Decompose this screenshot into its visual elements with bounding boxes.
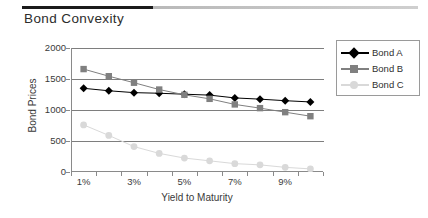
y-tick-label: 1500 [26, 73, 66, 84]
data-point [105, 87, 113, 95]
y-tick-label: 2000 [26, 42, 66, 53]
diamond-marker-icon [348, 47, 359, 58]
x-tick-label: 3% [119, 176, 149, 187]
data-point [231, 160, 238, 167]
data-point [257, 161, 264, 168]
y-tick-label: 500 [26, 135, 66, 146]
data-point [130, 89, 138, 97]
series-line [84, 88, 311, 102]
x-tick-label: 9% [270, 176, 300, 187]
data-point [181, 155, 188, 162]
legend-item-bond-c[interactable]: Bond C [341, 77, 417, 92]
legend-swatch [341, 79, 369, 91]
legend-item-bond-b[interactable]: Bond B [341, 61, 417, 76]
data-point [156, 150, 163, 157]
data-point [256, 95, 264, 103]
circle-marker-icon [350, 81, 358, 89]
legend-label: Bond A [369, 47, 403, 58]
data-point [282, 164, 289, 171]
legend-swatch [341, 47, 369, 59]
data-point [231, 94, 239, 102]
y-tick-label: 0 [26, 166, 66, 177]
legend: Bond ABond BBond C [336, 40, 420, 96]
x-axis-tick-labels: 1%3%5%7%9% [71, 176, 324, 190]
data-point [80, 84, 88, 92]
series-bond-b [80, 66, 313, 120]
data-point [181, 92, 187, 98]
x-tick-label: 1% [69, 176, 99, 187]
data-point [282, 109, 288, 115]
page-title: Bond Convexity [24, 11, 124, 26]
data-point [206, 157, 213, 164]
title-divider [22, 6, 418, 9]
x-tick-label: 7% [220, 176, 250, 187]
y-tick-mark [66, 141, 70, 142]
y-tick-mark [66, 172, 70, 173]
chart-screenshot: { "title": "Bond Convexity", "legend": {… [0, 0, 428, 218]
series-bond-a [80, 84, 315, 106]
data-point [105, 132, 112, 139]
data-point [306, 98, 314, 106]
series-line [84, 69, 311, 116]
data-point [307, 113, 313, 119]
data-point [131, 80, 137, 86]
legend-label: Bond C [369, 79, 404, 90]
legend-swatch [341, 63, 369, 75]
data-point [281, 97, 289, 105]
y-axis-tick-labels: 0500100015002000 [22, 48, 66, 172]
data-point [80, 66, 86, 72]
x-axis-title: Yield to Maturity [71, 192, 323, 203]
series-layer [71, 48, 323, 172]
data-point [206, 96, 212, 102]
legend-item-bond-a[interactable]: Bond A [341, 45, 417, 60]
x-tick-label: 5% [169, 176, 199, 187]
series-bond-c [80, 121, 314, 172]
y-tick-label: 1000 [26, 104, 66, 115]
data-point [106, 73, 112, 79]
data-point [131, 143, 138, 150]
data-point [156, 86, 162, 92]
data-point [257, 105, 263, 111]
square-marker-icon [350, 65, 358, 73]
legend-label: Bond B [369, 63, 403, 74]
data-point [232, 101, 238, 107]
y-tick-mark [66, 48, 70, 49]
y-tick-mark [66, 79, 70, 80]
series-line [84, 125, 311, 169]
data-point [80, 121, 87, 128]
y-tick-mark [66, 110, 70, 111]
